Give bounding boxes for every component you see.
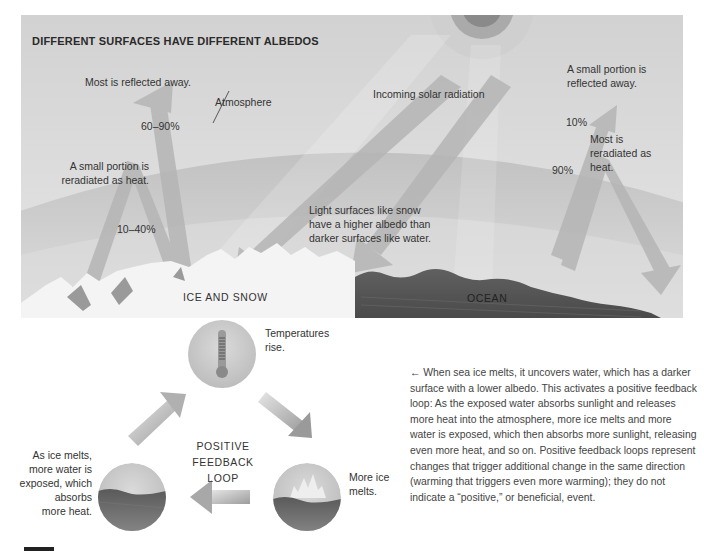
label-small-reflected: A small portion is reflected away.	[567, 62, 646, 90]
caption-text: When sea ice melts, it uncovers water, w…	[410, 367, 697, 503]
label-most-reflected: Most is reflected away.	[85, 75, 191, 89]
label-ocean: OCEAN	[467, 291, 507, 305]
loop-title: POSITIVE FEEDBACK LOOP	[168, 438, 278, 486]
thermometer-icon	[188, 320, 256, 388]
figure-title: DIFFERENT SURFACES HAVE DIFFERENT ALBEDO…	[32, 35, 319, 47]
melting-ice-icon	[270, 463, 345, 538]
label-light-surfaces: Light surfaces like snow have a higher a…	[309, 203, 431, 245]
step-more-ice-melts: More ice melts.	[349, 470, 389, 498]
step-temperatures-rise: Temperatures rise.	[265, 326, 329, 354]
left-arrow-icon: ←	[410, 367, 420, 378]
exposed-water-icon	[95, 463, 170, 538]
figure-caption: ← When sea ice melts, it uncovers water,…	[410, 365, 698, 505]
page-marker	[24, 547, 54, 551]
albedo-diagram: DIFFERENT SURFACES HAVE DIFFERENT ALBEDO…	[21, 15, 683, 318]
arrow-down-right-icon	[258, 392, 312, 438]
label-small-reradiated: A small portion is reradiated as heat.	[39, 159, 149, 187]
label-pct-10: 10%	[566, 115, 587, 129]
label-pct-10-40: 10–40%	[117, 222, 156, 236]
label-atmosphere: Atmosphere	[215, 95, 272, 109]
label-pct-90: 90%	[552, 163, 573, 177]
label-incoming-solar: Incoming solar radiation	[373, 87, 484, 101]
step-water-exposed: As ice melts, more water is exposed, whi…	[10, 448, 92, 518]
label-pct-60-90: 60–90%	[141, 119, 180, 133]
label-most-reradiated: Most is reradiated as heat.	[590, 132, 651, 174]
label-ice-and-snow: ICE AND SNOW	[183, 290, 268, 304]
